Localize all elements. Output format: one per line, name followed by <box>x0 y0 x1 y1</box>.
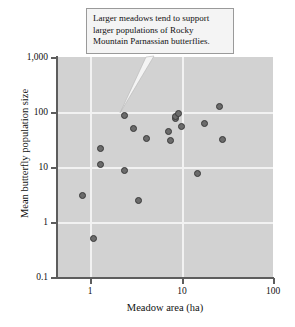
annotation-line-1: Larger meadows tend to support <box>93 13 228 25</box>
y-ticklabel-0.1: 0.1 <box>36 272 48 282</box>
data-point <box>219 136 226 143</box>
x-ticklabel-1: 1 <box>70 286 110 296</box>
y-ticklabel-10: 10 <box>39 162 49 172</box>
annotation-pointer-icon <box>120 56 156 114</box>
data-point <box>175 110 182 117</box>
data-point <box>79 192 86 199</box>
gridline-x-1 <box>90 57 92 277</box>
y-tick-1 <box>51 222 57 224</box>
data-point <box>167 137 174 144</box>
annotation-line-2: larger populations of Rocky <box>93 25 228 37</box>
x-tick-1 <box>90 278 92 284</box>
y-tick-0.1 <box>51 277 57 279</box>
data-point <box>165 128 172 135</box>
x-tick-100 <box>273 278 275 284</box>
x-ticklabel-100: 100 <box>253 286 293 296</box>
plot-area <box>57 57 273 277</box>
data-point <box>97 145 104 152</box>
data-point <box>90 235 97 242</box>
annotation-line-3: Mountain Parnassian butterflies. <box>93 36 228 48</box>
x-ticklabel-10: 10 <box>162 286 202 296</box>
y-tick-1000 <box>51 57 57 59</box>
y-tick-100 <box>51 112 57 114</box>
data-point <box>143 135 150 142</box>
gridline-x-10 <box>182 57 184 277</box>
data-point <box>201 120 208 127</box>
data-point <box>178 123 185 130</box>
data-point <box>194 170 201 177</box>
data-point <box>135 197 142 204</box>
y-axis-title: Mean butterfly population size <box>19 54 30 254</box>
scatter-plot-figure: 1,000 100 10 1 0.1 1 10 100 Mean butterf… <box>0 0 295 327</box>
annotation-callout: Larger meadows tend to support larger po… <box>86 8 234 54</box>
x-axis-title: Meadow area (ha) <box>57 302 273 313</box>
x-tick-10 <box>182 278 184 284</box>
data-point <box>130 125 137 132</box>
data-point <box>216 103 223 110</box>
y-ticklabel-100: 100 <box>34 107 48 117</box>
y-ticklabel-1000: 1,000 <box>27 52 48 62</box>
data-point <box>121 167 128 174</box>
y-ticklabel-1: 1 <box>43 217 48 227</box>
x-axis-line <box>56 277 274 279</box>
y-tick-10 <box>51 167 57 169</box>
